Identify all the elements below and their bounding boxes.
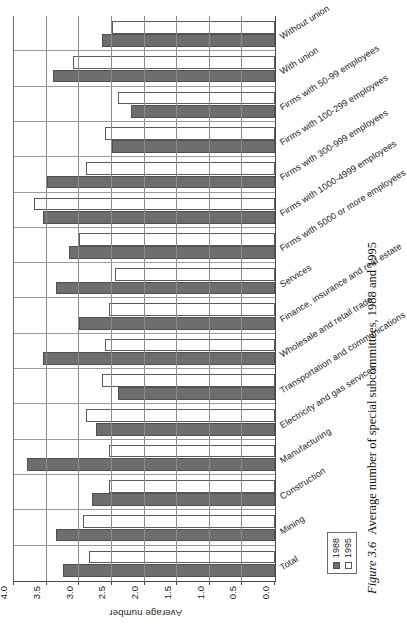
y-tick-label: 1.5 [161, 586, 172, 599]
bar-1988 [63, 564, 275, 577]
bar-group [14, 334, 275, 369]
bar-1995 [89, 551, 275, 564]
bar-1988 [92, 493, 275, 506]
bar-1988 [79, 317, 275, 330]
bar-1988 [118, 388, 275, 401]
category-label: Mining [278, 514, 306, 537]
y-tick-mark [78, 581, 79, 585]
bar-group [14, 228, 275, 263]
bar-1995 [102, 374, 275, 387]
bar-1995 [105, 127, 275, 140]
category-separator [14, 509, 275, 510]
bar-1995 [34, 198, 275, 211]
category-label: Manufacturing [278, 427, 333, 466]
y-tick-mark [13, 581, 14, 585]
y-tick-mark [144, 581, 145, 585]
category-label: Total [278, 553, 300, 572]
y-tick-label: 4.0 [0, 586, 9, 599]
y-tick-label: 1.0 [194, 586, 205, 599]
y-tick-label: 3.0 [63, 586, 74, 599]
legend-label-1995: 1995 [343, 538, 353, 558]
y-tick-mark [46, 581, 47, 585]
bar-1995 [118, 92, 275, 105]
bar-series-layer [14, 16, 275, 581]
bar-group [14, 51, 275, 86]
category-separator [14, 227, 275, 228]
bar-1988 [131, 105, 275, 118]
gridline [144, 16, 145, 581]
bar-group [14, 193, 275, 228]
plot-canvas [14, 16, 276, 582]
y-tick-label: 2.5 [96, 586, 107, 599]
category-separator [14, 50, 275, 51]
gridline [111, 16, 112, 581]
chart-legend: 1988 1995 [327, 532, 357, 574]
gridline [78, 16, 79, 581]
category-separator [14, 333, 275, 334]
bar-1995 [109, 303, 275, 316]
y-tick-mark [111, 581, 112, 585]
category-separator [14, 368, 275, 369]
gridline [13, 16, 14, 581]
bar-1995 [86, 409, 275, 422]
legend-swatch-icon-1988 [333, 562, 340, 569]
category-separator [14, 262, 275, 263]
category-separator [14, 298, 275, 299]
bar-group [14, 122, 275, 157]
y-tick-label: 3.5 [30, 586, 41, 599]
bar-1995 [115, 268, 275, 281]
bar-group [14, 510, 275, 545]
y-tick-label: 2.0 [129, 586, 140, 599]
category-separator [14, 192, 275, 193]
y-axis-tick-labels: 0.00.51.01.52.02.53.03.54.0 [14, 582, 276, 606]
bar-group [14, 157, 275, 192]
bar-1995 [109, 480, 275, 493]
gridline [46, 16, 47, 581]
y-axis-title-text: Average number [109, 609, 182, 620]
category-label: Firms with 50-99 employees [278, 43, 381, 112]
legend-entry-1988: 1988 [331, 538, 341, 569]
gridline [176, 16, 177, 581]
bar-1988 [96, 423, 275, 436]
category-label: Electricity and gas services [278, 363, 378, 430]
category-label: With union [278, 45, 320, 77]
bar-1995 [79, 233, 275, 246]
legend-entry-1995: 1995 [343, 538, 353, 569]
category-separator [14, 86, 275, 87]
y-tick-mark [209, 581, 210, 585]
y-tick-mark [176, 581, 177, 585]
category-label: Wholesale and retail trade [278, 295, 374, 360]
y-tick-label: 0.5 [227, 586, 238, 599]
category-label: Firms with 100-299 employees [278, 73, 390, 148]
bar-1988 [112, 140, 275, 153]
bar-group [14, 87, 275, 122]
category-label: Firms with 300-999 employees [278, 108, 390, 183]
category-separator [14, 474, 275, 475]
bar-1988 [69, 246, 275, 259]
bar-1995 [112, 21, 275, 34]
legend-swatch-icon-1995 [345, 562, 352, 569]
category-separator [14, 403, 275, 404]
bar-1988 [27, 458, 275, 471]
category-label: Construction [278, 465, 327, 501]
y-tick-mark [274, 581, 275, 585]
bar-1995 [109, 445, 275, 458]
category-separator [14, 156, 275, 157]
legend-label-1988: 1988 [331, 538, 341, 558]
bar-group [14, 475, 275, 510]
category-label: Services [278, 262, 313, 289]
gridline [209, 16, 210, 581]
category-separator [14, 121, 275, 122]
y-tick-label: 0.0 [260, 586, 271, 599]
bar-1995 [73, 56, 275, 69]
bar-group [14, 369, 275, 404]
bar-1988 [102, 34, 275, 47]
category-separator [14, 439, 275, 440]
bar-group [14, 299, 275, 334]
plot-wrapper: 0.00.51.01.52.02.53.03.54.0 [14, 16, 276, 606]
bar-group [14, 404, 275, 439]
chart-area: Average number 0.00.51.01.52.02.53.03.54… [14, 16, 365, 622]
